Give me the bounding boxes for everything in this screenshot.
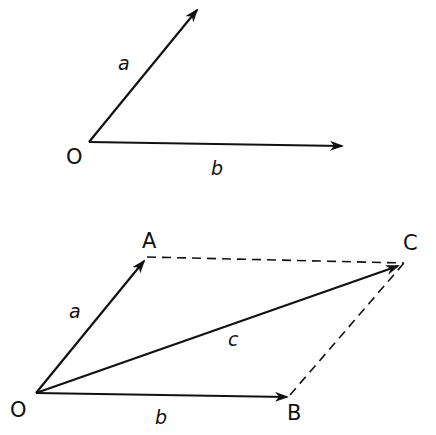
origin-label: O: [10, 398, 27, 422]
vector-a-arrow: [89, 10, 197, 142]
point-b-label: B: [287, 401, 301, 425]
point-c-label: C: [403, 231, 418, 255]
point-a-label: A: [142, 229, 157, 253]
figure-1-two-vectors: O a b: [66, 10, 342, 179]
figure-2-parallelogram: A C O B a b c: [10, 229, 418, 428]
vector-b-label: b: [211, 157, 223, 179]
vector-c-label: c: [228, 328, 239, 350]
vector-b-label: b: [155, 406, 167, 428]
vector-a-label: a: [69, 300, 81, 322]
vector-addition-diagram: O a b A C O B a b c: [0, 0, 436, 435]
vector-b-arrow: [36, 393, 287, 397]
origin-label: O: [66, 145, 83, 169]
vector-b-arrow: [89, 142, 342, 146]
dashed-line-a-to-c: [147, 257, 404, 263]
vector-c-arrow: [36, 266, 398, 393]
vector-a-label: a: [118, 52, 130, 74]
